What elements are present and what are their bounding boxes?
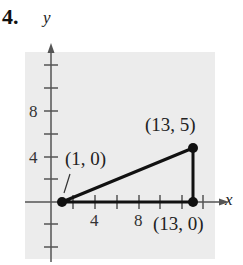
point-13-0 <box>188 197 198 207</box>
x-tick-label-4: 4 <box>90 211 99 230</box>
label-point-13-0: (13, 0) <box>153 213 204 235</box>
point-13-5 <box>188 143 198 153</box>
label-point-1-0: (1, 0) <box>65 148 106 170</box>
y-tick-label-4: 4 <box>29 148 38 167</box>
label-point-13-5: (13, 5) <box>145 114 196 136</box>
chart: 8 4 4 8 (1, 0) (13, 5) (13, 0) <box>0 0 243 265</box>
x-tick-label-8: 8 <box>134 211 143 230</box>
y-tick-label-8: 8 <box>29 102 38 121</box>
point-1-0 <box>57 197 67 207</box>
x-axis-arrow-icon <box>219 199 229 206</box>
y-axis-arrow-icon <box>48 43 55 53</box>
